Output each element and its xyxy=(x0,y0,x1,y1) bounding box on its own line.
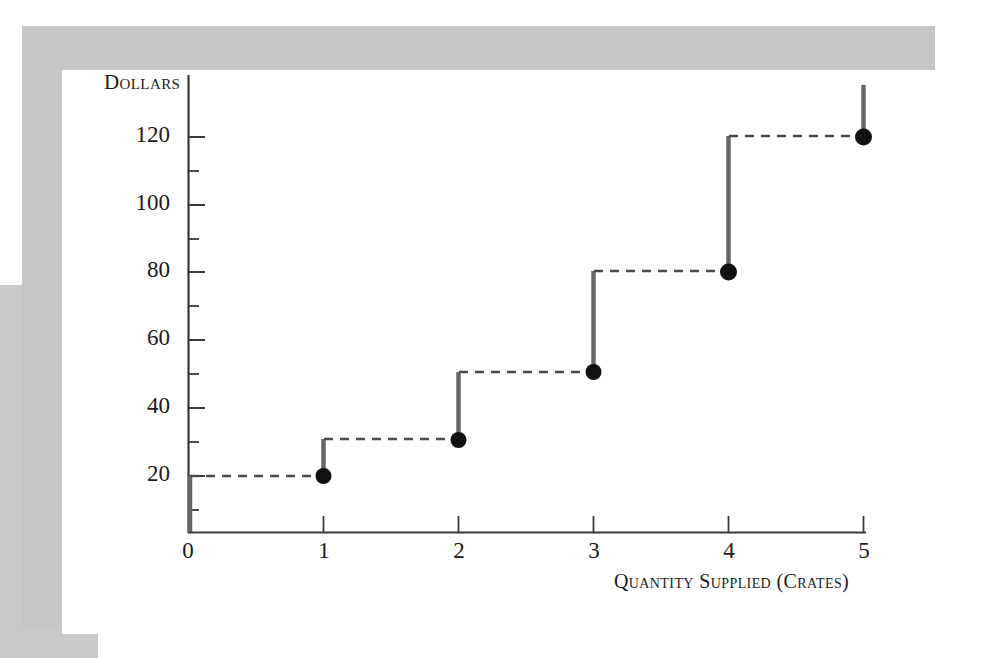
step-risers xyxy=(190,85,864,532)
figure-page-root: Dollars Quantity Supplied (Crates) 120 1… xyxy=(0,0,989,658)
x-tick-label-1: 1 xyxy=(304,538,344,564)
axis-lines xyxy=(188,75,866,533)
y-axis-title: Dollars xyxy=(104,70,180,95)
data-point-1-20 xyxy=(316,468,332,484)
data-point-2-31 xyxy=(451,432,467,448)
y-tick-label-60: 60 xyxy=(110,325,170,351)
y-tick-label-40: 40 xyxy=(110,393,170,419)
x-axis-ticks xyxy=(324,516,864,532)
y-tick-label-100: 100 xyxy=(110,190,170,216)
x-tick-label-5: 5 xyxy=(844,538,884,564)
y-tick-label-120: 120 xyxy=(110,122,170,148)
data-point-5-121 xyxy=(855,129,872,146)
x-tick-label-0: 0 xyxy=(168,538,208,564)
x-axis-title: Quantity Supplied (Crates) xyxy=(614,570,849,593)
data-point-3-51 xyxy=(586,364,602,380)
x-tick-label-4: 4 xyxy=(709,538,749,564)
y-tick-label-80: 80 xyxy=(110,257,170,283)
y-tick-label-20: 20 xyxy=(110,461,170,487)
data-point-4-81 xyxy=(720,264,737,281)
step-treads xyxy=(190,136,862,476)
x-tick-label-3: 3 xyxy=(574,538,614,564)
x-tick-label-2: 2 xyxy=(439,538,479,564)
